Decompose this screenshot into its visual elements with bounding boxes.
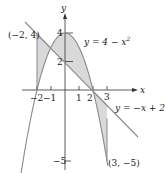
point-label: (3, −5) (108, 158, 140, 168)
point-label: (−2, 4) (8, 30, 40, 40)
x-axis-arrow-icon (132, 88, 138, 92)
area-between-curves-figure: −2 −1 1 2 3 4 2 −5 x y y = 4 − x2 y = −x… (0, 0, 166, 173)
graph: −2 −1 1 2 3 4 2 −5 x y y = 4 − x2 y = −x… (0, 0, 166, 173)
line-label: y = −x + 2 (114, 103, 165, 113)
y-axis-arrow-icon (63, 13, 67, 19)
y-tick-label: −5 (53, 156, 67, 166)
y-axis-label: y (60, 3, 67, 13)
x-ticks (37, 86, 107, 90)
x-tick-label: −2 (30, 93, 43, 103)
x-tick-label: 1 (76, 93, 82, 103)
x-tick-label: −1 (43, 93, 56, 103)
parabola-label: y = 4 − x2 (83, 35, 130, 47)
x-axis-label: x (140, 85, 145, 95)
x-tick-label: 2 (87, 93, 93, 103)
x-tick-label: 3 (104, 92, 110, 102)
y-tick-label: 4 (57, 28, 63, 38)
y-tick-label: 2 (57, 57, 63, 67)
